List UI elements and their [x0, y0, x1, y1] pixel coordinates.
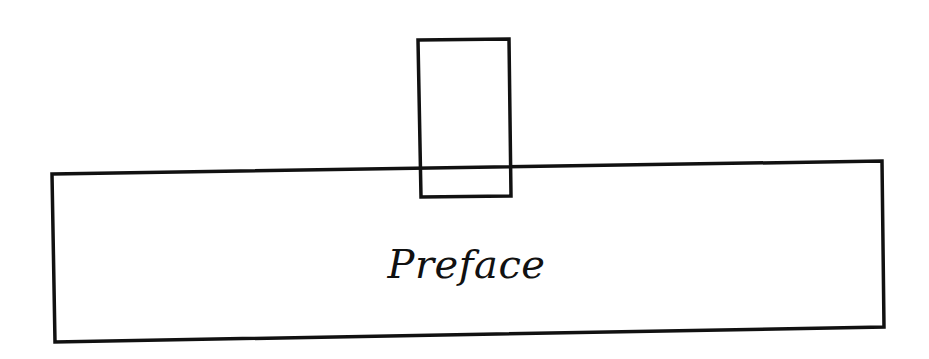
preface-label: Preface [2, 234, 929, 294]
tab-box [418, 39, 511, 197]
diagram-canvas [0, 0, 929, 359]
